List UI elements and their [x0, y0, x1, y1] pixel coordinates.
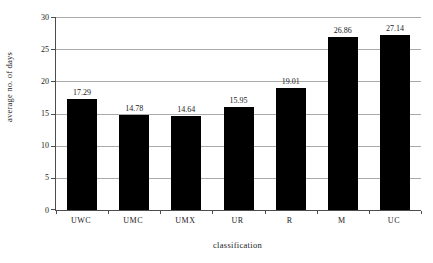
gridline-y20: [56, 81, 421, 82]
bar-UMX: [171, 116, 201, 210]
y-axis-tick-mark: [51, 114, 56, 115]
bar-value-label: 14.64: [156, 105, 216, 114]
bar-UC: [380, 35, 410, 210]
y-axis-tick-mark: [51, 17, 56, 18]
bar-value-label: 26.86: [313, 26, 373, 35]
x-tick-label-R: R: [260, 216, 320, 225]
x-axis-title: classification: [55, 240, 420, 250]
x-axis-tick-mark: [160, 211, 161, 214]
plot-area: 17.2914.7814.6415.9519.0126.8627.14: [55, 17, 421, 211]
y-axis-tick-mark: [51, 146, 56, 147]
y-tick-label: 10: [0, 141, 49, 150]
x-tick-label-UC: UC: [364, 216, 424, 225]
bar-UR: [224, 107, 254, 210]
x-axis-tick-mark: [56, 211, 57, 214]
y-axis-tick-mark: [51, 209, 56, 210]
x-axis-tick-mark: [421, 211, 422, 214]
bar-UMC: [119, 115, 149, 210]
gridline-y30: [56, 17, 421, 18]
y-tick-label: 0: [0, 206, 49, 215]
bar-value-label: 15.95: [209, 96, 269, 105]
gridline-y25: [56, 49, 421, 50]
y-tick-label: 5: [0, 173, 49, 182]
y-tick-label: 25: [0, 45, 49, 54]
bar-value-label: 17.29: [52, 88, 112, 97]
y-axis-tick-mark: [51, 49, 56, 50]
y-axis-tick-mark: [51, 81, 56, 82]
bar-R: [276, 88, 306, 210]
bar-value-label: 14.78: [104, 104, 164, 113]
bar-chart-figure: average no. of days 17.2914.7814.6415.95…: [0, 0, 433, 263]
x-tick-label-UWC: UWC: [51, 216, 111, 225]
bar-value-label: 19.01: [261, 77, 321, 86]
x-tick-label-UMX: UMX: [155, 216, 215, 225]
x-axis-tick-mark: [317, 211, 318, 214]
x-axis-tick-mark: [212, 211, 213, 214]
x-tick-label-UR: UR: [208, 216, 268, 225]
x-axis-tick-mark: [265, 211, 266, 214]
y-axis-tick-mark: [51, 178, 56, 179]
bar-UWC: [67, 99, 97, 210]
x-axis-tick-mark: [369, 211, 370, 214]
bar-value-label: 27.14: [365, 24, 425, 33]
x-tick-label-M: M: [312, 216, 372, 225]
x-tick-label-UMC: UMC: [103, 216, 163, 225]
y-tick-label: 30: [0, 13, 49, 22]
y-tick-label: 20: [0, 77, 49, 86]
bar-M: [328, 37, 358, 210]
x-axis-tick-mark: [108, 211, 109, 214]
y-tick-label: 15: [0, 109, 49, 118]
